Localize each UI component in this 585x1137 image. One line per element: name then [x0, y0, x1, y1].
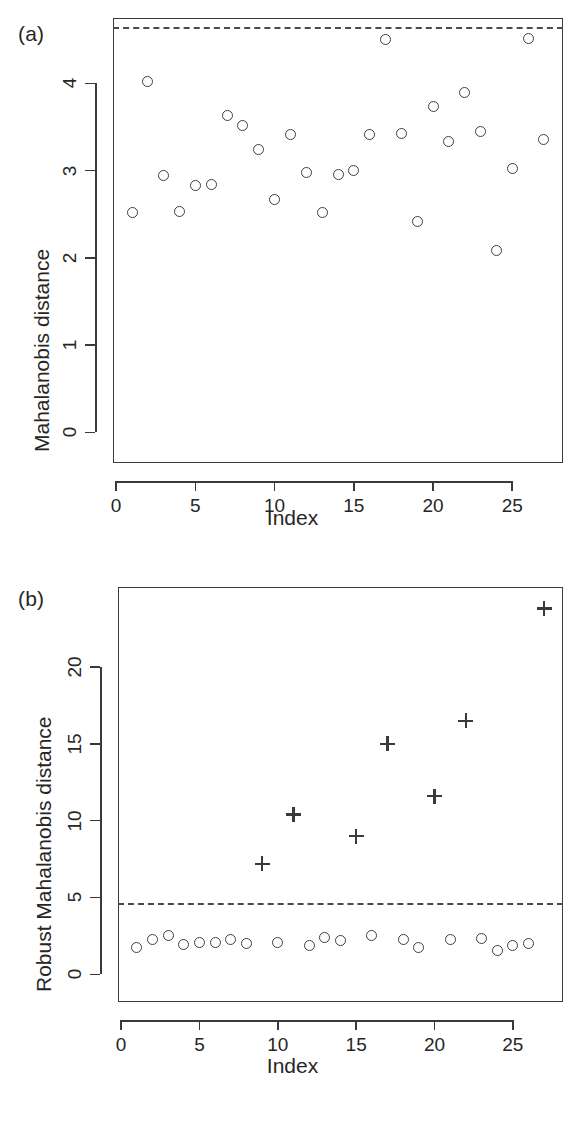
- x-tick-label: 15: [343, 495, 364, 517]
- y-tick: [90, 820, 100, 822]
- plot-area-a: [113, 18, 563, 463]
- x-tick-label: 25: [502, 495, 523, 517]
- y-tick: [85, 257, 95, 259]
- cutoff-threshold-line: [113, 27, 563, 29]
- y-tick-label: 10: [64, 810, 86, 832]
- data-point-plus: [380, 736, 395, 751]
- y-tick-label: 15: [64, 733, 86, 755]
- x-axis-title-a: Index: [0, 506, 585, 530]
- y-tick-label: 0: [64, 963, 86, 985]
- x-tick: [353, 481, 355, 491]
- x-tick: [115, 481, 117, 491]
- data-point-circle: [127, 207, 138, 218]
- y-axis-title-b: Robust Mahalanobis distance: [32, 716, 56, 992]
- y-tick-label: 5: [64, 886, 86, 908]
- data-point-circle: [194, 937, 205, 948]
- x-tick: [120, 1020, 122, 1030]
- data-point-circle: [222, 110, 233, 121]
- data-point-circle: [492, 945, 503, 956]
- data-point-circle: [190, 180, 201, 191]
- y-tick: [85, 83, 95, 85]
- data-point-circle: [445, 934, 456, 945]
- y-tick-label: 3: [59, 160, 81, 182]
- x-tick-label: 10: [267, 1034, 288, 1056]
- y-axis-line: [100, 667, 102, 974]
- x-tick: [199, 1020, 201, 1030]
- y-tick: [90, 974, 100, 976]
- data-point-circle: [317, 207, 328, 218]
- x-tick-label: 5: [194, 1034, 205, 1056]
- x-tick-label: 20: [424, 1034, 445, 1056]
- panel-a-tag: (a): [18, 22, 44, 46]
- x-tick-label: 15: [346, 1034, 367, 1056]
- data-point-circle: [523, 33, 534, 44]
- data-point-circle: [398, 934, 409, 945]
- data-point-circle: [491, 245, 502, 256]
- data-point-circle: [241, 938, 252, 949]
- x-tick: [512, 1020, 514, 1030]
- data-point-circle: [459, 87, 470, 98]
- data-point-plus: [537, 601, 552, 616]
- x-axis-line: [121, 1020, 513, 1022]
- x-tick: [511, 481, 513, 491]
- data-point-circle: [428, 101, 439, 112]
- x-tick-label: 0: [116, 1034, 127, 1056]
- data-point-circle: [206, 179, 217, 190]
- x-axis-title-b: Index: [0, 1054, 585, 1078]
- data-point-plus: [427, 789, 442, 804]
- y-tick-label: 2: [59, 247, 81, 269]
- x-tick: [195, 481, 197, 491]
- y-axis-line: [95, 83, 97, 432]
- figure-root: (a) Mahalanobis distance Index 051015202…: [0, 0, 585, 1137]
- y-tick: [85, 344, 95, 346]
- x-tick-label: 25: [502, 1034, 523, 1056]
- cutoff-threshold-line: [118, 903, 563, 905]
- y-tick: [85, 432, 95, 434]
- data-point-plus: [255, 856, 270, 871]
- x-axis-line: [116, 481, 512, 483]
- x-tick: [355, 1020, 357, 1030]
- data-point-circle: [304, 940, 315, 951]
- y-tick: [90, 897, 100, 899]
- x-tick-label: 0: [111, 495, 122, 517]
- y-tick: [85, 170, 95, 172]
- panel-a: (a) Mahalanobis distance Index 051015202…: [0, 0, 585, 570]
- data-point-plus: [349, 829, 364, 844]
- data-point-circle: [333, 169, 344, 180]
- y-tick-label: 1: [59, 334, 81, 356]
- x-tick: [277, 1020, 279, 1030]
- y-tick: [90, 743, 100, 745]
- y-tick-label: 0: [59, 421, 81, 443]
- data-point-circle: [412, 216, 423, 227]
- panel-b: (b) Robust Mahalanobis distance Index 05…: [0, 567, 585, 1137]
- data-point-circle: [301, 167, 312, 178]
- y-tick: [90, 666, 100, 668]
- x-tick-label: 10: [264, 495, 285, 517]
- x-tick: [432, 481, 434, 491]
- data-point-circle: [163, 930, 174, 941]
- x-tick-label: 5: [190, 495, 201, 517]
- x-tick: [434, 1020, 436, 1030]
- data-point-circle: [158, 170, 169, 181]
- data-point-circle: [475, 126, 486, 137]
- data-point-plus: [458, 713, 473, 728]
- y-tick-label: 20: [64, 656, 86, 678]
- y-axis-title-a: Mahalanobis distance: [30, 249, 54, 452]
- x-tick-label: 20: [422, 495, 443, 517]
- data-point-circle: [396, 128, 407, 139]
- y-tick-label: 4: [59, 72, 81, 94]
- data-point-plus: [286, 807, 301, 822]
- x-tick: [274, 481, 276, 491]
- data-point-circle: [147, 934, 158, 945]
- data-point-circle: [210, 937, 221, 948]
- panel-b-tag: (b): [18, 587, 44, 611]
